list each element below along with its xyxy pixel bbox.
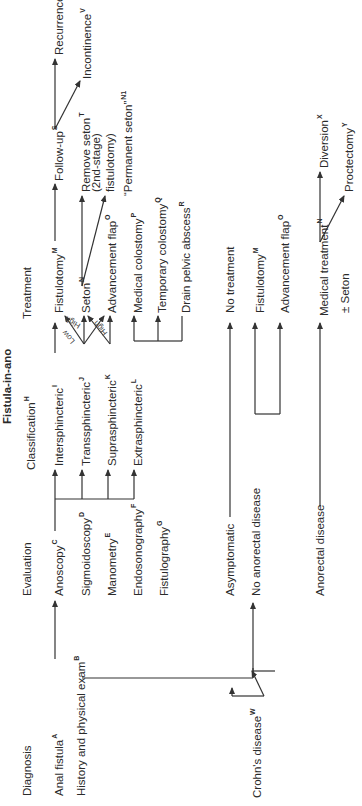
anorectal-disease-node: Anorectal disease [313,505,327,596]
crohns-fan-lines [0,0,362,806]
crohns-fistulotomy: FistulotomyM [249,247,267,313]
crohns-seton: ± Seton [338,273,352,313]
crohns-no-treatment: No treatment [223,247,237,313]
asymptomatic-node: Asymptomatic [223,524,237,596]
crohns-proctectomy: ProctectomyY [338,122,356,192]
crohns-medical-treatment: Medical treatmentN [313,219,331,316]
crohns-diversion: DiversionX [313,114,331,168]
no-anorectal-disease-node: No anorectal disease [249,488,263,596]
flowchart-landscape-frame: Fistula-in-ano Diagnosis Evaluation Clas… [0,0,362,806]
crohns-advancement-flap: Advancement flapO [274,214,292,313]
